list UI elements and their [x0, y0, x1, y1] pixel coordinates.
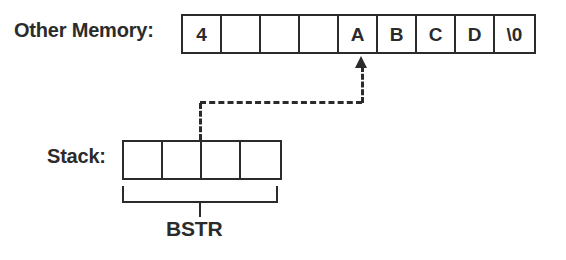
pointer-dashed-horizontal	[200, 101, 362, 104]
memory-cell: B	[378, 16, 417, 52]
memory-layout-diagram: Other Memory: 4 A B C D \0 Stack: BSTR	[0, 0, 566, 260]
memory-cell	[300, 16, 339, 52]
stack-cell	[124, 142, 163, 178]
bstr-span-bracket	[122, 186, 278, 203]
memory-cell: 4	[183, 16, 222, 52]
memory-cell: C	[417, 16, 456, 52]
memory-cell	[222, 16, 261, 52]
memory-cell: A	[339, 16, 378, 52]
pointer-dashed-vertical-lower	[199, 103, 202, 140]
stack-cell	[241, 142, 280, 178]
stack-cell	[202, 142, 241, 178]
stack-label: Stack:	[47, 146, 106, 166]
stack-cell-row	[122, 140, 282, 180]
bstr-label: BSTR	[166, 218, 222, 239]
memory-cell: \0	[495, 16, 534, 52]
other-memory-cell-row: 4 A B C D \0	[181, 14, 536, 54]
pointer-dashed-vertical-upper	[361, 66, 364, 103]
memory-cell	[261, 16, 300, 52]
memory-cell: D	[456, 16, 495, 52]
bstr-bracket-stem	[199, 203, 201, 217]
stack-cell	[163, 142, 202, 178]
other-memory-label: Other Memory:	[14, 20, 154, 40]
